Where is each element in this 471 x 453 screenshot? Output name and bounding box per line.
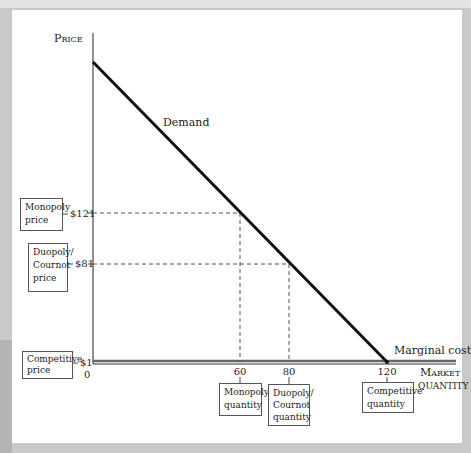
y-tick-label-81: $81 [75, 258, 94, 270]
monopoly-quantity-box: Monopoly quantity [219, 383, 262, 416]
x-axis-label-line1: Market [420, 367, 460, 379]
competitive-price-box: Competitive price [22, 351, 73, 379]
demand-line [93, 62, 387, 362]
x-tick-label-60: 60 [225, 366, 255, 377]
x-tick-label-120: 120 [372, 366, 402, 377]
duopoly-price-box: Duopoly/ Cournot price [28, 243, 68, 292]
competitive-quantity-box: Competitive quantity [362, 382, 414, 413]
x-tick-label-80: 80 [274, 366, 304, 377]
duopoly-quantity-box: Duopoly/ Cournot quantity [268, 384, 310, 426]
marginal-cost-label: Marginal cost [394, 345, 471, 357]
monopoly-price-box: Monopoly price [20, 198, 63, 231]
x-axis-label-line2: quantity [418, 380, 469, 392]
competitive-point [385, 360, 389, 364]
demand-label: Demand [163, 117, 209, 129]
origin-label: 0 [84, 369, 90, 381]
y-axis-label: Price [54, 33, 83, 45]
y-tick-label-121: $121 [70, 208, 95, 220]
